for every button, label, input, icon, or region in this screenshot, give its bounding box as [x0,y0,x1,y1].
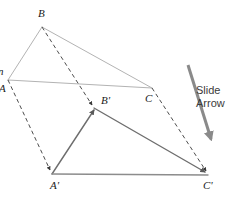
segment-ab [8,27,42,80]
vertex-label-c-prime: C' [203,180,213,191]
preimage-triangle-abc [8,27,152,88]
vector-a-to-a-prime [8,80,50,170]
image-triangle-a-b-c-prime [52,108,208,175]
segment-b-prime-c-prime [94,108,205,172]
clipped-text-fragment: n [0,66,4,77]
vertex-label-a: A [0,83,6,94]
vector-b-to-b-prime [42,27,92,105]
segment-bc [42,27,152,88]
slide-arrow-callout-line2: Arrow [196,97,225,110]
vertex-label-c: C [145,93,152,104]
vertex-label-b: B [38,8,45,19]
slide-arrow-callout-line1: Slide [196,84,225,97]
segment-a-prime-b-prime [52,110,94,174]
vertex-label-a-prime: A' [50,180,59,191]
segment-a-prime-c-prime [52,174,208,175]
translation-figure: n A B B' C A' C' Slide Arrow [0,0,230,197]
slide-arrow-callout: Slide Arrow [196,84,225,110]
vertex-label-b-prime: B' [101,95,110,106]
